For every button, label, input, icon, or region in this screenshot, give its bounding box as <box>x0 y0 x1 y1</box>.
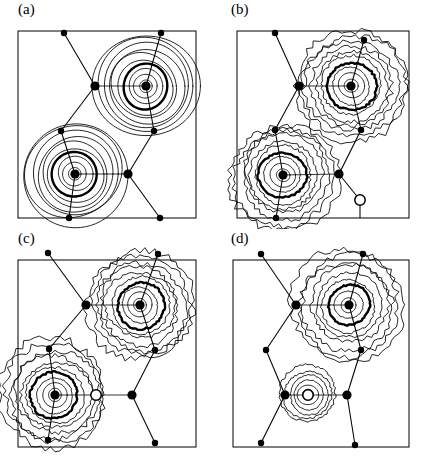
atom-upper-center <box>344 300 353 309</box>
atom-lower-left <box>280 390 289 399</box>
atom-bottom-right <box>352 442 358 448</box>
atom-top-right <box>361 37 367 43</box>
atom-top-right <box>360 251 366 257</box>
bond-lowercenter-lowerright <box>283 174 339 175</box>
bond-lowerright-bottomright <box>128 174 160 218</box>
bond-lowerright-bottomright <box>347 395 355 445</box>
bond-uppercenter-topright <box>140 254 158 305</box>
bond-midright-lowerright <box>347 350 361 395</box>
bond-lowerright-bottomright <box>132 395 155 443</box>
atom-bottom-left <box>66 215 72 221</box>
bond-lowerleft-bottomleft <box>261 395 285 443</box>
panel-a: (a) <box>0 0 213 229</box>
bond-uppercenter-midright <box>349 305 361 350</box>
atom-mid-left <box>58 128 64 134</box>
panel-frame <box>237 31 409 218</box>
bond-topleft-uppermid <box>48 253 86 305</box>
contour-map-a <box>0 0 213 229</box>
atom-lower-right <box>127 390 136 399</box>
bond-midleft-lowerleft <box>266 350 285 395</box>
atom-bottom-right <box>157 215 163 221</box>
atom-top-left <box>272 30 278 36</box>
panel-d: (d) <box>213 229 426 458</box>
atom-bottom-left <box>258 440 264 446</box>
atom-top-left <box>45 250 51 256</box>
bond-uppermid-midleft <box>275 86 299 130</box>
atom-bottom-right <box>152 440 158 446</box>
atom-upper-mid <box>90 81 99 90</box>
atom-mid-left <box>46 346 52 352</box>
atom-top-left <box>258 251 264 257</box>
contour-map-d <box>213 229 426 458</box>
atom-top-left <box>61 30 67 36</box>
atom-upper-mid <box>294 81 303 90</box>
contour-map-b <box>213 0 426 229</box>
panel-b: (b) <box>213 0 426 229</box>
bond-midright-lowerright <box>132 350 155 395</box>
atom-bottom-left <box>273 215 279 221</box>
bond-uppercenter-topright <box>146 33 161 86</box>
contour-group <box>24 36 201 228</box>
atom-mid-right <box>151 128 157 134</box>
atom-upper-center <box>346 81 355 90</box>
atom-upper-mid <box>81 300 90 309</box>
panel-c: (c) <box>0 229 213 458</box>
bond-midright-lowerright <box>128 131 154 174</box>
atom-mid-right <box>358 347 364 353</box>
atom-bottom-left <box>45 437 51 443</box>
contour-map-c <box>0 229 213 458</box>
atom-upper-mid <box>291 300 300 309</box>
atom-lower-right <box>334 169 343 178</box>
panel-frame <box>18 31 196 218</box>
atom-mid-right <box>152 347 158 353</box>
atom-open-center <box>303 390 313 400</box>
bond-uppercenter-midright <box>140 305 155 350</box>
atom-mid-left <box>263 347 269 353</box>
atom-upper-center <box>141 81 150 90</box>
atom-open-middle <box>91 390 101 400</box>
atom-lower-center <box>70 169 79 178</box>
figure-root: (a)(b)(c)(d) <box>0 0 427 459</box>
bond-topleft-uppermid <box>275 33 299 86</box>
contour-group <box>0 248 195 452</box>
bond-uppermid-midleft <box>49 305 86 349</box>
bond-topleft-uppermid <box>64 33 95 86</box>
atom-lower-right <box>342 390 351 399</box>
atom-mid-left <box>272 127 278 133</box>
contour-group <box>228 28 409 229</box>
atom-top-right <box>158 30 164 36</box>
panel-frame <box>233 260 409 447</box>
atom-open-lower-right <box>355 195 365 205</box>
atom-upper-center <box>135 300 144 309</box>
contour-group <box>279 247 404 422</box>
atom-lower-center <box>50 390 59 399</box>
bond-topleft-uppermid <box>261 254 296 305</box>
bond-uppermid-midleft <box>266 305 296 350</box>
atom-lower-right <box>123 169 132 178</box>
bond-midright-lowerright <box>339 130 361 174</box>
atom-mid-right <box>358 127 364 133</box>
atom-lower-center <box>278 170 287 179</box>
atom-top-right <box>155 251 161 257</box>
